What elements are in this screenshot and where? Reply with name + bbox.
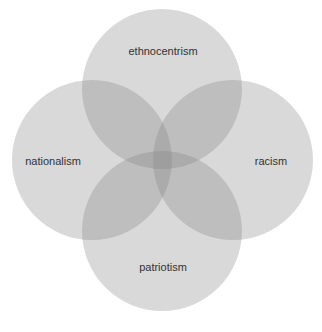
circle-patriotism: [82, 151, 242, 311]
label-nationalism: nationalism: [25, 155, 81, 167]
label-patriotism: patriotism: [139, 261, 187, 273]
label-racism: racism: [255, 155, 287, 167]
label-ethnocentrism: ethnocentrism: [128, 45, 197, 57]
venn-diagram: ethnocentrism nationalism racism patriot…: [0, 0, 322, 332]
